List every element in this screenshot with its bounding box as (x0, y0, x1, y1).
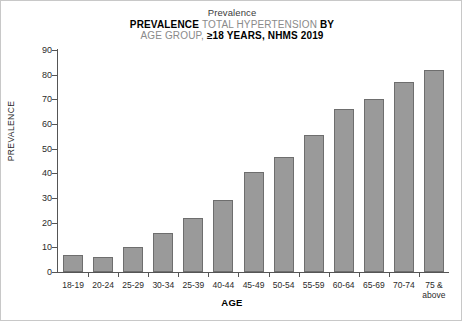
bar (334, 109, 354, 272)
bar (394, 82, 414, 272)
x-tick-mark (359, 272, 360, 277)
chart-figure: Prevalence PREVALENCE TOTAL HYPERTENSION… (0, 0, 462, 321)
x-axis-spine (57, 272, 449, 273)
y-tick-label: 10 (6, 242, 52, 252)
x-tick-mark (329, 272, 330, 277)
y-tick-label: 20 (6, 218, 52, 228)
bar (274, 157, 294, 272)
x-axis-title: AGE (1, 297, 462, 308)
bar (123, 247, 143, 272)
x-tick-mark (88, 272, 89, 277)
y-tick-label: 80 (6, 70, 52, 80)
title-segment-age-group: AGE GROUP, (140, 30, 206, 41)
bar (63, 255, 83, 272)
bar (364, 99, 384, 272)
bar (304, 135, 324, 272)
x-tick-mark (269, 272, 270, 277)
x-tick-mark (389, 272, 390, 277)
x-tick-mark (299, 272, 300, 277)
x-tick-mark (148, 272, 149, 277)
bar (244, 172, 264, 272)
x-tick-mark (419, 272, 420, 277)
x-tick-mark (118, 272, 119, 277)
y-tick-label: 90 (6, 45, 52, 55)
chart-subtitle: Prevalence (1, 7, 462, 19)
chart-title-block: Prevalence PREVALENCE TOTAL HYPERTENSION… (1, 7, 462, 42)
title-segment-years-nhms: ≥18 YEARS, NHMS 2019 (207, 30, 324, 41)
title-segment-prevalence: PREVALENCE (130, 19, 202, 30)
bar-series (58, 50, 449, 272)
bar (153, 233, 173, 272)
y-tick-mark (52, 272, 58, 273)
x-tick-mark (208, 272, 209, 277)
y-tick-label: 30 (6, 193, 52, 203)
chart-title-line-1: PREVALENCE TOTAL HYPERTENSION BY (1, 19, 462, 31)
bar (93, 257, 113, 272)
title-segment-total-hypertension: TOTAL HYPERTENSION (202, 19, 320, 30)
y-tick-label: 0 (6, 267, 52, 277)
x-tick-mark (178, 272, 179, 277)
bar (183, 218, 203, 272)
x-tick-mark (238, 272, 239, 277)
chart-title-line-2: AGE GROUP, ≥18 YEARS, NHMS 2019 (1, 30, 462, 42)
title-segment-by: BY (320, 19, 334, 30)
y-axis-title: PREVALENCE (6, 81, 16, 181)
bar (213, 200, 233, 272)
bar (424, 70, 444, 272)
